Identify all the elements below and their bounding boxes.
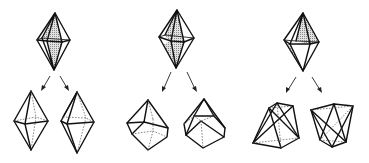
result-rhombic-2b (184, 99, 225, 148)
result-crossed-3b (311, 104, 353, 147)
source-bipyramid-1 (37, 13, 70, 70)
arrow-3-left (286, 77, 296, 93)
result-bipyramid-1a (14, 91, 48, 150)
source-bipyramid-3 (284, 13, 319, 71)
column-2 (127, 10, 225, 150)
arrow-1-right (60, 76, 69, 91)
result-rhombic-2a (127, 100, 168, 150)
arrow-2-left (162, 72, 171, 92)
column-3 (253, 13, 353, 148)
arrow-1-left (41, 76, 50, 91)
source-bipyramid-2 (159, 10, 194, 68)
column-1 (14, 13, 94, 153)
result-bipyramid-1b (61, 92, 94, 153)
polyhedra-diagram (0, 0, 369, 163)
arrow-3-right (312, 77, 322, 93)
arrow-2-right (187, 72, 197, 92)
result-crossed-3a (253, 103, 299, 148)
